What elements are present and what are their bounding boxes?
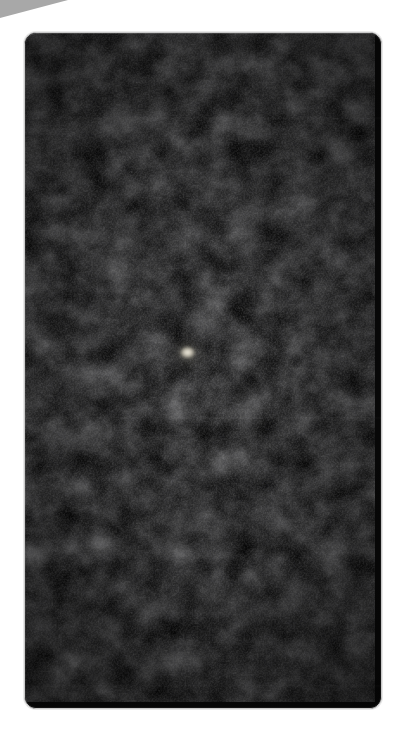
noise-texture-fine <box>25 33 375 702</box>
image-canvas[interactable] <box>25 33 381 708</box>
corner-triangle-shape <box>0 0 68 18</box>
app-root: Dark Field Viewer low-light noise field <box>0 0 406 742</box>
corner-triangle-marker <box>0 0 70 20</box>
image-viewer-panel[interactable] <box>24 32 382 709</box>
